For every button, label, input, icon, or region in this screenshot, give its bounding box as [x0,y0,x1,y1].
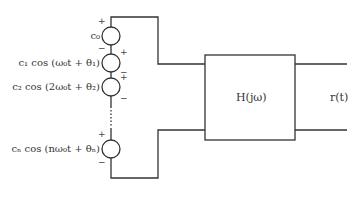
minus-sign-c0: − [98,44,106,53]
source-c1-icon [102,54,120,72]
plus-sign-c1: + [120,48,128,57]
source-c2-icon [102,78,120,96]
source-label-cn: cₙ cos (nω₀t + θₙ) [11,144,100,154]
source-cn-icon [102,140,120,158]
block-label: H(jω) [236,92,267,103]
source-label-c2: c₂ cos (2ω₀t + θ₂) [12,82,100,92]
minus-sign-c2: − [120,94,128,103]
minus-sign-cn: − [98,158,106,167]
output-label: r(t) [330,92,348,103]
circuit-diagram [0,0,362,199]
plus-sign-c2: + [120,73,128,82]
plus-sign-cn: + [98,130,106,139]
source-label-c0: c₀ [90,31,100,41]
source-label-c1: c₁ cos (ω₀t + θ₁) [19,58,100,68]
plus-sign-c0: + [98,17,106,26]
bottom-wire [111,130,205,178]
